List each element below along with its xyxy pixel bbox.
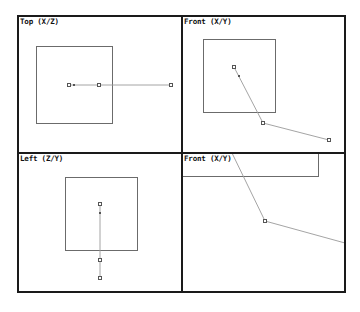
vertex-handle[interactable] [99, 259, 102, 262]
viewport-label-left: Left (Z/Y) [20, 155, 63, 163]
bounding-box [66, 178, 138, 251]
viewport-label-perspective: Front (X/Y) [184, 155, 231, 163]
viewport-top[interactable] [18, 16, 182, 153]
vertex-handle[interactable] [99, 277, 102, 280]
control-point[interactable] [99, 212, 101, 214]
vertex-handle[interactable] [68, 84, 71, 87]
vertex-handle[interactable] [170, 84, 173, 87]
vertex-handle[interactable] [262, 122, 265, 125]
vertex-handle[interactable] [233, 66, 236, 69]
viewport-frame [182, 16, 345, 153]
viewport-label-front: Front (X/Y) [184, 18, 231, 26]
vertex-handle[interactable] [264, 220, 267, 223]
vertex-handle[interactable] [99, 203, 102, 206]
viewport-content [37, 47, 173, 124]
vertex-handle[interactable] [98, 84, 101, 87]
viewport-content [151, 101, 346, 244]
viewport-left[interactable] [18, 153, 182, 292]
control-point[interactable] [238, 75, 240, 77]
viewport-front[interactable] [182, 16, 345, 153]
viewport-label-top: Top (X/Z) [20, 18, 59, 26]
vertex-handle[interactable] [328, 139, 331, 142]
viewport-content [204, 40, 331, 142]
bounding-box [151, 101, 319, 177]
path-line [234, 67, 329, 140]
path-line [232, 153, 345, 243]
viewport-perspective[interactable] [151, 101, 346, 293]
control-point[interactable] [73, 84, 75, 86]
viewport-grid: Top (X/Z) Front (X/Y) Left (Z/Y) Front (… [0, 0, 360, 312]
viewport-content [66, 178, 138, 280]
